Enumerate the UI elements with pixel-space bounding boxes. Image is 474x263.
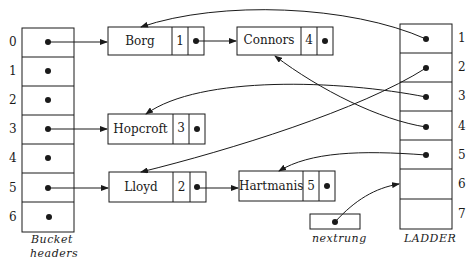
record-name-connors: Connors bbox=[237, 33, 301, 47]
ladder-caption: LADDER bbox=[404, 233, 456, 245]
ladder-index-2: 2 bbox=[458, 61, 466, 73]
bucket-index-4: 4 bbox=[9, 152, 17, 164]
record-rung-hopcroft: 3 bbox=[173, 121, 189, 135]
ladder-index-1: 1 bbox=[458, 32, 466, 44]
record-name-hartmanis: Hartmanis bbox=[239, 179, 303, 193]
record-rung-connors: 4 bbox=[301, 33, 317, 47]
bucket-index-2: 2 bbox=[9, 94, 17, 106]
ladder-index-7: 7 bbox=[458, 208, 466, 220]
bucket-index-1: 1 bbox=[9, 65, 17, 77]
bucket-caption-line2: headers bbox=[30, 248, 78, 260]
bucket-index-0: 0 bbox=[9, 36, 17, 48]
bucket-index-6: 6 bbox=[9, 211, 17, 223]
nextrung-caption: nextrung bbox=[312, 233, 367, 245]
record-name-hopcroft: Hopcroft bbox=[108, 122, 173, 136]
bucket-index-3: 3 bbox=[9, 123, 17, 135]
ladder-index-5: 5 bbox=[458, 149, 466, 161]
record-rung-borg: 1 bbox=[172, 34, 188, 48]
ladder-index-4: 4 bbox=[458, 120, 466, 132]
record-rung-hartmanis: 5 bbox=[303, 179, 319, 193]
record-rung-lloyd: 2 bbox=[173, 180, 190, 194]
record-name-borg: Borg bbox=[108, 34, 172, 48]
record-name-lloyd: Lloyd bbox=[109, 180, 173, 194]
diagram-canvas: 0 1 2 3 4 5 6 Bucket headers Borg 1 Conn… bbox=[0, 0, 474, 263]
bucket-index-5: 5 bbox=[9, 182, 17, 194]
ladder-index-3: 3 bbox=[458, 90, 466, 102]
ladder-index-6: 6 bbox=[458, 178, 466, 190]
bucket-caption-line1: Bucket bbox=[31, 234, 73, 246]
